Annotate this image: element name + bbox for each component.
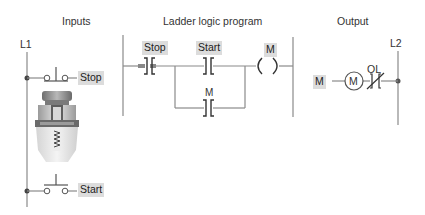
l1-label: L1 [20, 39, 32, 50]
output-title: Output [337, 16, 369, 27]
motor-label: M [349, 76, 358, 87]
stop-contact-tag: Stop [142, 41, 168, 55]
stop-pushbutton-symbol [25, 67, 78, 81]
stop-input-tag: Stop [78, 71, 104, 85]
ladder-title: Ladder logic program [163, 16, 262, 27]
overload-label: OL [367, 64, 381, 75]
start-contact-symbol [203, 58, 214, 74]
l2-label: L2 [390, 38, 402, 49]
coil-tag: M [264, 43, 277, 57]
m-contact-label: M [205, 88, 213, 98]
inputs-title: Inputs [62, 16, 91, 27]
start-contact-tag: Start [196, 41, 222, 55]
output-m-tag: M [313, 75, 326, 89]
m-output-coil-symbol [258, 58, 277, 74]
l2-power-rail [396, 51, 401, 125]
start-pushbutton-symbol [25, 174, 78, 194]
m-seal-in-contact-symbol [203, 100, 214, 116]
pushbutton-cutaway-image [35, 91, 79, 162]
start-input-tag: Start [78, 183, 104, 197]
ladder-rung [123, 64, 293, 108]
ladder-logic-diagram: Inputs Ladder logic program Output L1 L2… [0, 0, 425, 215]
